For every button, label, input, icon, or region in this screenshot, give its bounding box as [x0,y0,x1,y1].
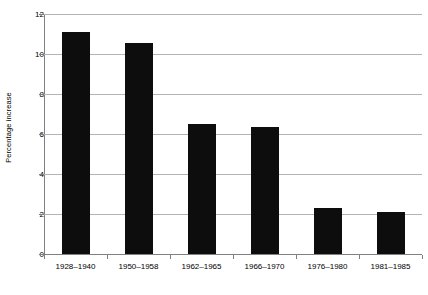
bar [251,127,279,254]
x-axis-tick-mark [233,255,234,259]
x-axis-tick-mark [296,255,297,259]
x-axis-tick-mark [359,255,360,259]
gridline [44,14,422,15]
x-axis-category-label: 1966–1970 [244,262,284,271]
bar [377,212,405,254]
x-axis-category-label: 1928–1940 [55,262,95,271]
x-axis-category-label: 1962–1965 [181,262,221,271]
x-axis-category-label: 1981–1985 [370,262,410,271]
gridline [44,54,422,55]
bar-chart: Percentage increase 024681012 1928–19401… [0,0,428,295]
bar [62,32,90,254]
x-axis-tick-mark [44,255,45,259]
x-axis-tick-mark [107,255,108,259]
gridline [44,94,422,95]
plot-area [44,14,422,254]
gridline [44,174,422,175]
y-axis-ticks: 024681012 [0,0,44,295]
bar [125,43,153,254]
bar [188,124,216,254]
x-axis-category-label: 1950–1958 [118,262,158,271]
x-axis-category-label: 1976–1980 [307,262,347,271]
gridline [44,134,422,135]
x-axis-tick-mark [422,255,423,259]
x-axis-tick-mark [170,255,171,259]
bar [314,208,342,254]
gridline [44,214,422,215]
